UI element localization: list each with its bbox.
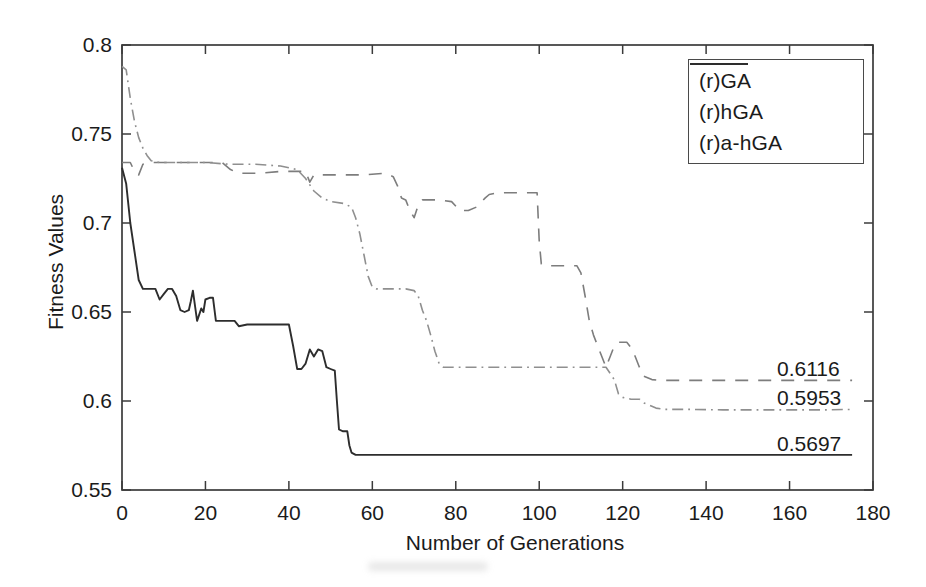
y-tick-label: 0.6: [83, 389, 112, 412]
legend: (r)GA (r)hGA (r)a-hGA: [688, 59, 864, 164]
scan-artifact: [368, 562, 488, 571]
legend-item-rahga: (r)a-hGA: [699, 131, 859, 155]
series-line-rga: [122, 163, 852, 381]
series-line-rahga: [122, 168, 852, 455]
legend-item-rhga: (r)hGA: [699, 100, 859, 124]
legend-label-rhga: (r)hGA: [699, 100, 763, 124]
x-axis-title: Number of Generations: [406, 531, 624, 555]
legend-label-rga: (r)GA: [699, 69, 751, 93]
y-tick-label: 0.65: [71, 300, 112, 323]
y-tick-label: 0.75: [71, 122, 112, 145]
legend-label-rahga: (r)a-hGA: [699, 131, 782, 155]
x-tick-label: 80: [444, 501, 467, 524]
x-tick-label: 20: [194, 501, 217, 524]
x-tick-label: 140: [689, 501, 724, 524]
final-value-annotation-rga: 0.6116: [777, 357, 840, 380]
x-tick-label: 60: [361, 501, 384, 524]
final-value-annotation-rhga: 0.5953: [777, 386, 841, 409]
y-tick-label: 0.8: [83, 33, 112, 56]
x-tick-label: 180: [855, 501, 890, 524]
fitness-convergence-figure: 0204060801001201401601800.550.60.650.70.…: [0, 0, 926, 587]
rahga-solid-line-sample: [689, 60, 749, 68]
y-tick-label: 0.7: [83, 211, 112, 234]
legend-item-rga: (r)GA: [699, 69, 859, 93]
y-axis-title: Fitness Values: [44, 194, 68, 330]
x-tick-label: 120: [605, 501, 640, 524]
x-tick-label: 0: [116, 501, 128, 524]
x-tick-label: 160: [772, 501, 807, 524]
final-value-annotation-rahga: 0.5697: [777, 432, 841, 455]
y-tick-label: 0.55: [71, 478, 112, 501]
x-tick-label: 40: [277, 501, 300, 524]
x-tick-label: 100: [522, 501, 557, 524]
